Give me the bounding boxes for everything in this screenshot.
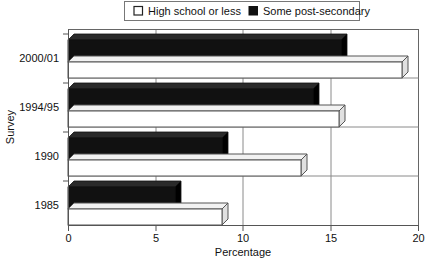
- bar-group-1994-95: [68, 83, 345, 127]
- bar-group-1985: [68, 181, 228, 225]
- y-tick-label-1985: 1985: [35, 199, 59, 211]
- y-axis: 2000/01 1994/95 1990 1985 Survey: [4, 30, 69, 226]
- x-tick-label-10: 10: [237, 232, 249, 244]
- legend-label-post-secondary: Some post-secondary: [263, 5, 370, 17]
- x-tick-label-15: 15: [325, 232, 337, 244]
- bar-1994-95-high-school: [68, 105, 345, 127]
- legend-label-high-school: High school or less: [148, 5, 241, 17]
- bar-2000-01-high-school: [68, 56, 408, 78]
- bar-1985-high-school: [68, 203, 228, 225]
- filled-square-icon: [249, 7, 258, 16]
- y-tick-label-1990: 1990: [35, 150, 59, 162]
- y-tick-label-2000-01: 2000/01: [19, 52, 59, 64]
- chart-canvas: High school or less Some post-secondary: [0, 0, 430, 261]
- bar-chart: High school or less Some post-secondary: [0, 0, 430, 261]
- bar-1990-high-school: [68, 154, 307, 176]
- open-square-icon: [134, 7, 143, 16]
- x-tick-label-0: 0: [65, 232, 71, 244]
- x-axis: 0 5 10 15 20 Percentage: [65, 226, 424, 259]
- x-axis-title: Percentage: [215, 246, 271, 258]
- x-tick-label-5: 5: [153, 232, 159, 244]
- y-axis-title: Survey: [4, 109, 16, 144]
- bar-group-1990: [68, 132, 307, 176]
- chart-legend: High school or less Some post-secondary: [125, 2, 371, 21]
- bar-group-2000-01: [68, 34, 408, 78]
- x-tick-label-20: 20: [412, 232, 424, 244]
- y-tick-label-1994-95: 1994/95: [19, 101, 59, 113]
